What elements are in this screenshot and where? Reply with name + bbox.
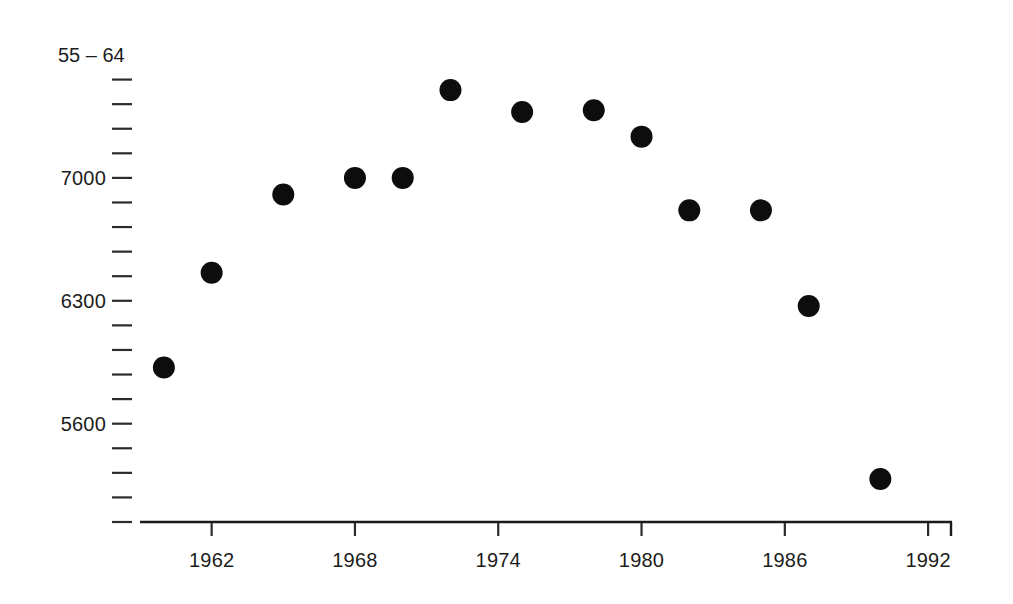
x-axis-tick-label: 1962 bbox=[189, 549, 234, 572]
y-axis-tick-label: 7000 bbox=[61, 166, 106, 189]
x-axis-tick-label: 1986 bbox=[762, 549, 807, 572]
data-point[interactable] bbox=[392, 167, 414, 189]
y-axis-tick-label: 5600 bbox=[61, 412, 106, 435]
x-axis-tick-label: 1992 bbox=[905, 549, 950, 572]
series-title: 55 – 64 bbox=[58, 44, 125, 67]
data-point-series bbox=[153, 79, 891, 490]
data-point[interactable] bbox=[798, 295, 820, 317]
x-axis-tick-label: 1974 bbox=[476, 549, 521, 572]
data-point[interactable] bbox=[201, 262, 223, 284]
data-point[interactable] bbox=[583, 99, 605, 121]
data-point[interactable] bbox=[439, 79, 461, 101]
chart-canvas bbox=[0, 0, 1013, 604]
plot-area: 55 – 64 700063005600 1962196819741980198… bbox=[0, 0, 1013, 604]
x-axis-tick-label: 1968 bbox=[332, 549, 377, 572]
chart-figure: 55 – 64 700063005600 1962196819741980198… bbox=[0, 0, 1013, 604]
y-axis-tick-label: 6300 bbox=[61, 289, 106, 312]
data-point[interactable] bbox=[869, 468, 891, 490]
data-point[interactable] bbox=[272, 184, 294, 206]
data-point[interactable] bbox=[631, 126, 653, 148]
data-point[interactable] bbox=[678, 199, 700, 221]
data-point[interactable] bbox=[344, 167, 366, 189]
x-axis-tick-marks bbox=[212, 522, 928, 536]
data-point[interactable] bbox=[511, 101, 533, 123]
x-axis-tick-label: 1980 bbox=[619, 549, 664, 572]
data-point[interactable] bbox=[153, 357, 175, 379]
y-axis-tick-marks bbox=[112, 80, 132, 522]
data-point[interactable] bbox=[750, 199, 772, 221]
